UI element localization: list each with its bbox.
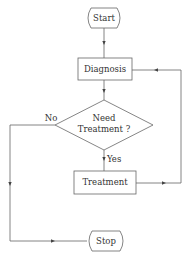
arrowhead-icon [8, 182, 11, 186]
arrowhead-icon [51, 239, 55, 242]
arrowhead-icon [102, 157, 105, 161]
edge-treatment-diagnosis [132, 70, 181, 183]
arrowhead-icon [162, 181, 166, 184]
decision-label-line2: Treatment ? [70, 124, 138, 134]
treatment-label: Treatment [74, 177, 136, 187]
arrowhead-icon [102, 89, 105, 93]
arrowhead-icon [154, 68, 158, 71]
start-label: Start [86, 13, 122, 23]
stop-label: Stop [87, 236, 125, 246]
decision-label-line1: Need [74, 113, 134, 123]
arrowhead-icon [102, 41, 105, 45]
diagnosis-label: Diagnosis [78, 64, 132, 74]
edge-label-no: No [44, 113, 58, 123]
edge-label-yes: Yes [107, 154, 125, 164]
